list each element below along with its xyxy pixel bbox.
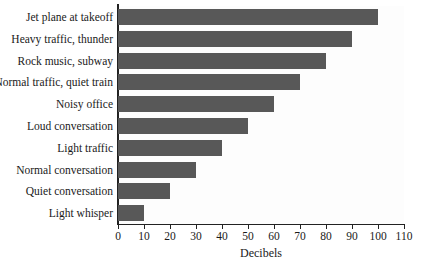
bar-fill xyxy=(118,205,144,221)
bar xyxy=(118,9,378,25)
category-label: Heavy traffic, thunder xyxy=(11,31,113,47)
bar xyxy=(118,162,196,178)
category-label: Loud conversation xyxy=(27,118,113,134)
bar xyxy=(118,53,326,69)
bar-fill xyxy=(118,140,222,156)
x-axis-title: Decibels xyxy=(118,246,404,261)
x-tick-mark xyxy=(170,224,171,229)
x-tick-mark xyxy=(248,224,249,229)
bar-fill xyxy=(118,53,326,69)
x-tick-mark xyxy=(118,224,119,229)
category-label: Noisy office xyxy=(56,96,113,112)
x-tick-mark xyxy=(404,224,405,229)
category-label: Light whisper xyxy=(49,205,113,221)
bar xyxy=(118,96,274,112)
x-tick-mark xyxy=(196,224,197,229)
x-tick-mark xyxy=(352,224,353,229)
bar xyxy=(118,118,248,134)
x-axis-line xyxy=(117,224,405,226)
category-axis-labels: Jet plane at takeoffHeavy traffic, thund… xyxy=(0,6,113,224)
category-label: Quiet conversation xyxy=(26,183,113,199)
x-tick-label: 110 xyxy=(389,230,419,243)
bar xyxy=(118,140,222,156)
bar-chart-figure: Jet plane at takeoffHeavy traffic, thund… xyxy=(0,0,424,267)
bar-fill xyxy=(118,162,196,178)
bar xyxy=(118,205,144,221)
bar xyxy=(118,31,352,47)
bar-fill xyxy=(118,96,274,112)
bar-fill xyxy=(118,31,352,47)
bar-fill xyxy=(118,9,378,25)
bar xyxy=(118,183,170,199)
x-tick-mark xyxy=(300,224,301,229)
category-label: Light traffic xyxy=(57,140,113,156)
category-label: Normal traffic, quiet train xyxy=(0,74,113,90)
bar-fill xyxy=(118,118,248,134)
category-label: Jet plane at takeoff xyxy=(26,9,113,25)
bar-fill xyxy=(118,74,300,90)
x-tick-mark xyxy=(274,224,275,229)
x-tick-mark xyxy=(144,224,145,229)
category-label: Rock music, subway xyxy=(17,53,113,69)
x-tick-mark xyxy=(378,224,379,229)
category-label: Normal conversation xyxy=(16,162,113,178)
x-tick-mark xyxy=(222,224,223,229)
x-tick-mark xyxy=(326,224,327,229)
bar-fill xyxy=(118,183,170,199)
bar xyxy=(118,74,300,90)
